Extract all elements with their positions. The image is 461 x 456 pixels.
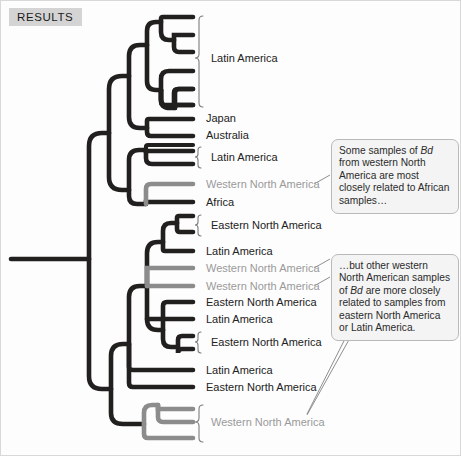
callout-eastern-note: …but other western North American sample… bbox=[331, 254, 459, 341]
tip-label-latin-america-mid: Latin America bbox=[211, 152, 278, 163]
tip-africa bbox=[146, 202, 193, 204]
tip-label-latin-america-2: Latin America bbox=[206, 246, 273, 257]
node-b-up bbox=[129, 45, 147, 76]
tip-wna-285 bbox=[163, 242, 193, 286]
tip-label-africa: Africa bbox=[206, 197, 234, 208]
tip-latin-2 bbox=[163, 242, 193, 251]
bracket-western-north-america-bottom bbox=[195, 405, 203, 442]
node-g-up bbox=[129, 150, 146, 190]
tip-label-eastern-north-america-4: Eastern North America bbox=[206, 382, 317, 393]
tip-label-eastern-north-america-1: Eastern North America bbox=[211, 220, 322, 231]
bracket-eastern-north-america-2 bbox=[195, 332, 201, 353]
callout-africa-text-before: Some samples of bbox=[339, 145, 421, 156]
tip-label-western-north-america-2: Western North America bbox=[206, 263, 320, 274]
tip-wna-437 bbox=[144, 424, 193, 438]
node-i-up bbox=[129, 286, 147, 344]
callout-africa-text-after: from western North America are most clos… bbox=[339, 157, 449, 205]
tip-ena-1b bbox=[177, 223, 193, 232]
tree-branches-dark bbox=[11, 17, 193, 424]
callout-eastern-italic-term: Bd bbox=[350, 285, 362, 296]
leader-africa-note-hook bbox=[322, 168, 330, 182]
tip-label-latin-america-3: Latin America bbox=[206, 314, 273, 325]
callout-africa-note: Some samples of Bd from western North Am… bbox=[331, 139, 459, 214]
node-b-down bbox=[129, 76, 147, 128]
tip-label-australia: Australia bbox=[206, 130, 249, 141]
root-branch-upper bbox=[89, 133, 109, 259]
tip-wna-267c bbox=[147, 268, 193, 286]
node-g-down bbox=[129, 190, 146, 204]
tip-label-japan: Japan bbox=[206, 113, 236, 124]
callout-africa-italic-term: Bd bbox=[421, 145, 433, 156]
group-brackets bbox=[195, 16, 203, 442]
tip-label-western-north-america-bottom: Western North America bbox=[211, 417, 325, 428]
tip-japan bbox=[147, 119, 193, 128]
node-h-down bbox=[111, 389, 144, 424]
node-j-up bbox=[147, 242, 163, 286]
tip-label-latin-america-4: Latin America bbox=[206, 365, 273, 376]
tip-ena-1a bbox=[177, 216, 193, 223]
tip-label-western-north-america-3: Western North America bbox=[206, 281, 320, 292]
tip-wna-408 bbox=[158, 405, 193, 411]
node-d-tip1 bbox=[161, 17, 193, 22]
tip-label-western-north-america-africa-clade: Western North America bbox=[206, 179, 320, 190]
tip3 bbox=[174, 40, 193, 52]
bracket-eastern-north-america-1 bbox=[195, 215, 201, 236]
node-a-up bbox=[109, 76, 129, 133]
tip2 bbox=[174, 35, 193, 40]
tip-latin-mid-1b bbox=[146, 150, 193, 151]
bracket-latin-america-top bbox=[195, 16, 203, 107]
tip-ena-2a bbox=[178, 336, 193, 347]
tip-label-eastern-north-america-2: Eastern North America bbox=[206, 297, 317, 308]
tip-label-eastern-north-america-3: Eastern North America bbox=[211, 337, 322, 348]
node-a-down bbox=[109, 133, 129, 190]
node-h-up bbox=[111, 344, 129, 389]
root-branch-lower bbox=[89, 259, 111, 389]
results-figure: RESULTS bbox=[0, 0, 461, 456]
bracket-latin-america-mid bbox=[195, 147, 201, 168]
tip-ena-301 bbox=[163, 302, 193, 330]
tip-ena-2b bbox=[178, 347, 193, 353]
tip-label-latin-america-top: Latin America bbox=[211, 53, 278, 64]
tip-australia bbox=[147, 128, 193, 136]
node-j-down bbox=[147, 286, 163, 330]
